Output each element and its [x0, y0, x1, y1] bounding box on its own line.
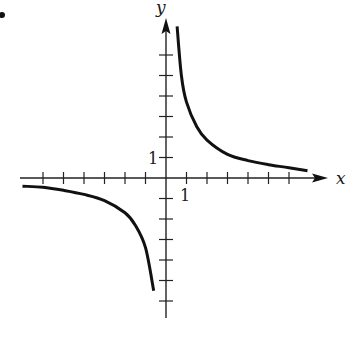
- y-axis-label: y: [155, 0, 166, 17]
- y-axis: [159, 18, 173, 318]
- hyperbola-chart: y x 1 1: [0, 0, 359, 338]
- bullet-marker: [0, 12, 5, 18]
- curve-quadrant-1: [177, 26, 307, 171]
- y-tick-label-1: 1: [148, 149, 158, 168]
- x-axis: [20, 172, 328, 184]
- x-tick-label-1: 1: [180, 186, 190, 205]
- curve-quadrant-3: [23, 186, 154, 291]
- x-axis-label: x: [336, 168, 346, 188]
